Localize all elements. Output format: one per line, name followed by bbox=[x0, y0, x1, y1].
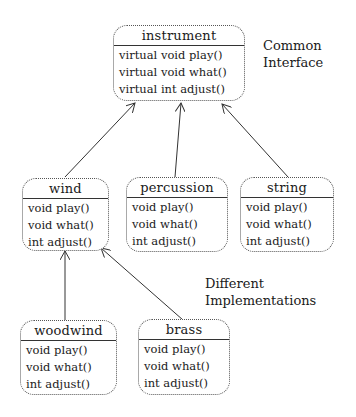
method: virtual int adjust() bbox=[119, 81, 244, 98]
class-title: percussion bbox=[127, 178, 227, 196]
title-divider bbox=[127, 197, 227, 198]
annotation-line: Interface bbox=[263, 54, 323, 71]
class-box-wind: wind void play() void what() int adjust(… bbox=[22, 178, 109, 251]
method: void play() bbox=[26, 342, 116, 359]
method-list: void play() void what() int adjust() bbox=[241, 199, 333, 250]
arrow-percussion-to-instrument bbox=[175, 103, 181, 177]
method-list: void play() void what() int adjust() bbox=[139, 341, 229, 392]
annotation-common-interface: Common Interface bbox=[263, 37, 323, 71]
title-divider bbox=[114, 45, 244, 46]
method: int adjust() bbox=[28, 234, 108, 251]
annotation-different-implementations: Different Implementations bbox=[205, 275, 316, 309]
title-divider bbox=[21, 340, 116, 341]
method: virtual void what() bbox=[119, 64, 244, 81]
method: int adjust() bbox=[246, 233, 333, 250]
class-box-woodwind: woodwind void play() void what() int adj… bbox=[20, 320, 117, 395]
annotation-line: Common bbox=[263, 37, 323, 54]
annotation-line: Implementations bbox=[205, 292, 316, 309]
method-list: virtual void play() virtual void what() … bbox=[114, 47, 244, 98]
class-box-instrument: instrument virtual void play() virtual v… bbox=[113, 25, 245, 101]
arrow-wind-to-instrument bbox=[65, 103, 135, 177]
method: void play() bbox=[246, 199, 333, 216]
method-list: void play() void what() int adjust() bbox=[23, 200, 108, 251]
method-list: void play() void what() int adjust() bbox=[127, 199, 227, 250]
method: void play() bbox=[132, 199, 227, 216]
class-box-brass: brass void play() void what() int adjust… bbox=[138, 319, 230, 395]
method: void what() bbox=[246, 216, 333, 233]
method: int adjust() bbox=[132, 233, 227, 250]
arrow-brass-to-wind bbox=[101, 248, 183, 320]
title-divider bbox=[23, 198, 108, 199]
method-list: void play() void what() int adjust() bbox=[21, 342, 116, 393]
arrow-string-to-instrument bbox=[222, 104, 288, 177]
class-title: brass bbox=[139, 320, 229, 338]
method: int adjust() bbox=[26, 376, 116, 393]
method: virtual void play() bbox=[119, 47, 244, 64]
class-box-string: string void play() void what() int adjus… bbox=[240, 177, 334, 252]
method: void what() bbox=[26, 359, 116, 376]
method: void play() bbox=[28, 200, 108, 217]
method: void what() bbox=[28, 217, 108, 234]
method: void what() bbox=[132, 216, 227, 233]
method: void what() bbox=[144, 358, 229, 375]
class-box-percussion: percussion void play() void what() int a… bbox=[126, 177, 228, 252]
class-title: wind bbox=[23, 179, 108, 197]
title-divider bbox=[241, 197, 333, 198]
class-title: instrument bbox=[114, 26, 244, 44]
method: int adjust() bbox=[144, 375, 229, 392]
class-title: string bbox=[241, 178, 333, 196]
class-title: woodwind bbox=[21, 321, 116, 339]
title-divider bbox=[139, 339, 229, 340]
annotation-line: Different bbox=[205, 275, 316, 292]
method: void play() bbox=[144, 341, 229, 358]
